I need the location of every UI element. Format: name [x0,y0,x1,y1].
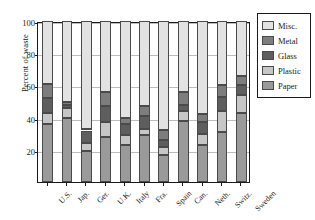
segment-metal[interactable] [217,85,228,96]
x-tick-label: Sweden [254,189,278,213]
x-tick-label: Can. [193,189,210,206]
legend-label: Plastic [278,66,301,76]
y-tick-label: 40 [27,115,36,125]
segment-metal[interactable] [120,118,131,124]
x-tick-mark [163,183,164,186]
segment-misc[interactable] [139,21,150,106]
segment-misc[interactable] [217,21,228,85]
x-tick-mark [144,183,145,186]
bar-fra[interactable] [139,21,150,182]
segment-glass[interactable] [42,98,53,112]
legend-swatch-icon [262,51,274,60]
segment-glass[interactable] [81,131,92,144]
segment-glass[interactable] [62,105,73,108]
segment-paper[interactable] [100,137,111,182]
segment-metal[interactable] [62,102,73,105]
legend-swatch-icon [262,36,274,45]
segment-paper[interactable] [158,155,169,182]
segment-misc[interactable] [62,21,73,102]
bar-series-layer [38,23,249,182]
x-tick-label: U.S. [57,189,73,205]
x-tick-label: U.K. [115,189,132,206]
segment-glass[interactable] [217,97,228,111]
x-tick-mark [202,183,203,186]
segment-glass[interactable] [236,85,247,95]
segment-paper[interactable] [62,118,73,182]
y-tick-label: 60 [27,82,36,92]
segment-metal[interactable] [139,106,150,116]
segment-paper[interactable] [217,132,228,182]
segment-glass[interactable] [178,105,189,111]
segment-glass[interactable] [139,116,150,129]
segment-misc[interactable] [178,21,189,92]
segment-misc[interactable] [236,21,247,76]
segment-plastic[interactable] [120,135,131,145]
segment-paper[interactable] [139,135,150,182]
segment-misc[interactable] [120,21,131,118]
segment-glass[interactable] [120,124,131,135]
segment-metal[interactable] [158,130,169,140]
segment-plastic[interactable] [62,108,73,118]
bar-can[interactable] [178,21,189,182]
x-tick-label: Neth. [213,189,232,208]
segment-misc[interactable] [158,21,169,130]
bar-uk[interactable] [100,21,111,182]
segment-paper[interactable] [178,121,189,182]
y-tick-mark [35,152,38,153]
bar-us[interactable] [42,21,53,182]
waste-composition-chart: Percent of waste 20406080100 U.S.Jap.Ger… [0,0,315,220]
segment-plastic[interactable] [178,111,189,121]
x-tick-mark [124,183,125,186]
segment-misc[interactable] [81,21,92,129]
x-tick-label: Spain [174,189,193,208]
bar-neth[interactable] [197,21,208,182]
legend-item[interactable]: Metal [262,33,307,48]
segment-metal[interactable] [42,84,53,98]
x-tick-mark [240,183,241,186]
bar-ger[interactable] [81,21,92,182]
segment-plastic[interactable] [197,134,208,145]
segment-plastic[interactable] [81,143,92,151]
segment-metal[interactable] [178,92,189,105]
bar-jap[interactable] [62,21,73,182]
legend: Misc.MetalGlassPlasticPaper [257,13,311,98]
bar-italy[interactable] [120,21,131,182]
plot-area: 20406080100 [37,22,250,183]
legend-item[interactable]: Plastic [262,63,307,78]
bar-switz[interactable] [217,21,228,182]
legend-swatch-icon [262,81,274,90]
segment-paper[interactable] [120,145,131,182]
segment-plastic[interactable] [139,129,150,135]
segment-plastic[interactable] [236,95,247,113]
segment-metal[interactable] [236,76,247,86]
segment-metal[interactable] [100,92,111,106]
segment-glass[interactable] [197,122,208,133]
segment-plastic[interactable] [158,147,169,155]
segment-glass[interactable] [158,140,169,146]
bar-spain[interactable] [158,21,169,182]
segment-plastic[interactable] [42,113,53,124]
legend-label: Misc. [278,21,297,31]
segment-misc[interactable] [100,21,111,92]
legend-item[interactable]: Misc. [262,18,307,33]
segment-paper[interactable] [236,113,247,182]
x-tick-mark [105,183,106,186]
legend-label: Paper [278,81,297,91]
legend-item[interactable]: Glass [262,48,307,63]
segment-misc[interactable] [42,21,53,84]
segment-plastic[interactable] [100,122,111,136]
legend-item[interactable]: Paper [262,78,307,93]
segment-misc[interactable] [197,21,208,114]
segment-plastic[interactable] [217,111,228,132]
segment-metal[interactable] [197,114,208,122]
segment-paper[interactable] [197,145,208,182]
bar-sweden[interactable] [236,21,247,182]
legend-label: Glass [278,51,297,61]
x-tick-mark [221,183,222,186]
y-tick-label: 100 [22,18,35,28]
y-tick-label: 80 [27,50,36,60]
segment-glass[interactable] [100,106,111,122]
segment-paper[interactable] [42,124,53,182]
legend-swatch-icon [262,21,274,30]
segment-paper[interactable] [81,151,92,182]
